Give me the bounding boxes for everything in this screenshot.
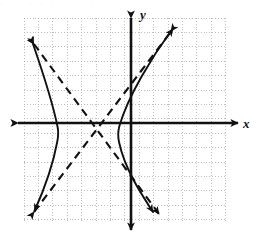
graph-figure: · · · · · · · · · · [0, 0, 258, 240]
axes [18, 18, 238, 230]
hyperbola-right-branch [118, 31, 171, 212]
grid-lines [24, 18, 226, 222]
asymptote-positive-slope [34, 29, 173, 212]
coordinate-plane [0, 0, 258, 240]
x-axis-label: x [243, 117, 250, 130]
asymptotes [34, 29, 173, 214]
y-axis-label: y [140, 8, 146, 21]
